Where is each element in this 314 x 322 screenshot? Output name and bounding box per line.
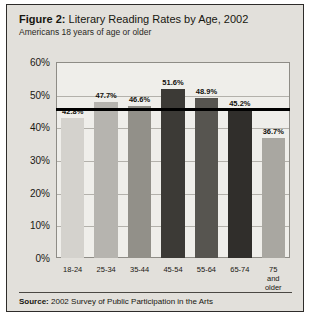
bar bbox=[195, 98, 218, 258]
title-block: Figure 2: Literary Reading Rates by Age,… bbox=[19, 13, 293, 38]
y-axis-tick-label: 0% bbox=[36, 253, 50, 264]
y-axis-tick-label: 10% bbox=[30, 220, 50, 231]
figure-title-text: Literary Reading Rates by Age, 2002 bbox=[65, 13, 248, 25]
bar-series: 42.8%47.7%46.6%51.6%48.9%45.2%36.7% bbox=[56, 62, 290, 258]
bar bbox=[61, 118, 84, 258]
figure-panel: Figure 2: Literary Reading Rates by Age,… bbox=[6, 4, 304, 312]
footer-divider bbox=[19, 292, 292, 293]
bar bbox=[128, 106, 151, 258]
x-axis-labels: 18-2425-3435-4445-5455-6465-7475 and old… bbox=[56, 261, 290, 287]
x-axis-tick-label: 45-54 bbox=[163, 265, 182, 274]
figure-subtitle: Americans 18 years of age or older bbox=[19, 27, 293, 38]
x-axis-tick-label: 35-44 bbox=[130, 265, 149, 274]
page-title: Figure 2: Literary Reading Rates by Age,… bbox=[19, 13, 293, 26]
source-text: 2002 Survey of Public Participation in t… bbox=[49, 297, 213, 306]
y-axis-tick-label: 60% bbox=[30, 57, 50, 68]
bar-value-label: 47.7% bbox=[96, 91, 117, 100]
x-axis-tick-label: 75 and older bbox=[265, 265, 282, 292]
figure-number: Figure 2: bbox=[19, 13, 65, 25]
reference-line bbox=[56, 108, 290, 111]
bar bbox=[161, 89, 184, 258]
y-axis-tick-label: 30% bbox=[30, 155, 50, 166]
source-label: Source: bbox=[19, 297, 49, 306]
x-axis-tick-label: 18-24 bbox=[63, 265, 82, 274]
y-axis-tick-label: 40% bbox=[30, 122, 50, 133]
y-axis-tick-label: 20% bbox=[30, 187, 50, 198]
y-axis-labels: 0%10%20%30%40%50%60% bbox=[7, 55, 56, 265]
bar bbox=[262, 138, 285, 258]
x-axis-tick-label: 55-64 bbox=[197, 265, 216, 274]
x-axis-tick-label: 25-34 bbox=[97, 265, 116, 274]
bar bbox=[228, 110, 251, 258]
source-note: Source: 2002 Survey of Public Participat… bbox=[19, 297, 293, 306]
bar-value-label: 46.6% bbox=[129, 95, 150, 104]
y-axis-tick-label: 50% bbox=[30, 89, 50, 100]
x-axis-tick-label: 65-74 bbox=[230, 265, 249, 274]
bar-value-label: 51.6% bbox=[162, 78, 183, 87]
chart-plot: 42.8%47.7%46.6%51.6%48.9%45.2%36.7% bbox=[56, 62, 290, 258]
bar-value-label: 48.9% bbox=[196, 87, 217, 96]
bar-value-label: 36.7% bbox=[263, 127, 284, 136]
bar bbox=[94, 102, 117, 258]
